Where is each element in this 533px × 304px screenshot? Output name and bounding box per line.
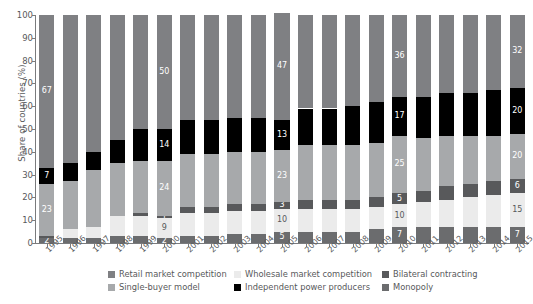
bar-2002[interactable]	[204, 15, 219, 243]
bar-segment[interactable]: 10	[274, 209, 289, 232]
bar-2013[interactable]	[463, 15, 478, 243]
bar-segment[interactable]	[486, 90, 501, 136]
bar-segment[interactable]: 32	[510, 15, 525, 88]
bar-segment[interactable]	[439, 15, 454, 93]
bar-2003[interactable]	[227, 15, 242, 243]
bar-segment[interactable]: 15	[510, 193, 525, 227]
bar-segment[interactable]	[227, 15, 242, 118]
bar-segment[interactable]	[180, 154, 195, 206]
bar-segment[interactable]	[204, 154, 219, 206]
legend-single-buyer-model[interactable]: Single-buyer model	[108, 282, 234, 292]
bar-segment[interactable]: 25	[392, 136, 407, 193]
legend-retail-market-competition[interactable]: Retail market competition	[108, 269, 234, 279]
bar-segment[interactable]	[463, 197, 478, 227]
bar-segment[interactable]	[439, 186, 454, 200]
bar-segment[interactable]: 9	[157, 218, 172, 239]
legend-wholesale-market-competition[interactable]: Wholesale market competition	[234, 269, 382, 279]
bar-segment[interactable]	[86, 152, 101, 170]
bar-1996[interactable]	[63, 15, 78, 243]
bar-segment[interactable]	[133, 213, 148, 215]
bar-segment[interactable]	[322, 145, 337, 200]
bar-segment[interactable]	[298, 145, 313, 200]
bar-segment[interactable]	[439, 136, 454, 186]
bar-segment[interactable]	[369, 15, 384, 102]
bar-segment[interactable]	[204, 120, 219, 154]
bar-segment[interactable]	[63, 163, 78, 181]
bar-segment[interactable]: 23	[274, 150, 289, 202]
bar-segment[interactable]	[227, 211, 242, 234]
legend-independent-power-producers[interactable]: Independent power producers	[234, 282, 382, 292]
bar-1998[interactable]	[110, 15, 125, 243]
bar-segment[interactable]	[227, 118, 242, 152]
bar-2008[interactable]	[345, 15, 360, 243]
bar-segment[interactable]	[110, 140, 125, 163]
bar-segment[interactable]	[416, 97, 431, 138]
bar-segment[interactable]	[416, 202, 431, 227]
bar-segment[interactable]	[486, 136, 501, 182]
bar-1997[interactable]	[86, 15, 101, 243]
bar-1999[interactable]	[133, 15, 148, 243]
bar-2011[interactable]	[416, 15, 431, 243]
bar-2005[interactable]: 5103231347	[274, 15, 289, 243]
bar-segment[interactable]	[86, 170, 101, 227]
bar-segment[interactable]: 20	[510, 134, 525, 180]
bar-2014[interactable]	[486, 15, 501, 243]
bar-segment[interactable]	[298, 209, 313, 232]
bar-segment[interactable]	[251, 15, 266, 118]
bar-segment[interactable]	[345, 145, 360, 200]
bar-segment[interactable]	[251, 118, 266, 152]
bar-2000[interactable]: 291241450	[157, 15, 172, 243]
bar-segment[interactable]	[86, 227, 101, 238]
bar-segment[interactable]: 23	[39, 184, 54, 236]
bar-segment[interactable]	[322, 209, 337, 232]
bar-segment[interactable]	[439, 200, 454, 227]
bar-2012[interactable]	[439, 15, 454, 243]
bar-segment[interactable]	[204, 15, 219, 120]
bar-segment[interactable]	[298, 200, 313, 209]
bar-2009[interactable]	[369, 15, 384, 243]
bar-segment[interactable]	[345, 209, 360, 232]
bar-segment[interactable]: 13	[274, 120, 289, 150]
bar-2015[interactable]: 7156202032	[510, 15, 525, 243]
legend-bilateral-contracting[interactable]: Bilateral contracting	[382, 269, 477, 279]
bar-2010[interactable]: 7105251736	[392, 15, 407, 243]
bar-segment[interactable]	[345, 200, 360, 209]
bar-segment[interactable]	[416, 138, 431, 190]
bar-segment[interactable]	[204, 207, 219, 214]
bar-2001[interactable]	[180, 15, 195, 243]
bar-segment[interactable]	[298, 15, 313, 108]
bar-segment[interactable]	[486, 181, 501, 195]
bar-segment[interactable]	[463, 93, 478, 136]
bar-segment[interactable]	[369, 197, 384, 206]
bar-2007[interactable]	[322, 15, 337, 243]
bar-segment[interactable]	[251, 211, 266, 234]
legend-monopoly[interactable]: Monopoly	[382, 282, 433, 292]
bar-segment[interactable]	[133, 216, 148, 237]
bar-segment[interactable]: 1	[157, 216, 172, 218]
bar-segment[interactable]	[180, 207, 195, 214]
bar-segment[interactable]: 7	[39, 168, 54, 184]
bar-segment[interactable]	[204, 213, 219, 236]
bar-segment[interactable]	[486, 15, 501, 90]
bar-segment[interactable]	[63, 229, 78, 238]
bar-1995[interactable]: 223767	[39, 15, 54, 243]
bar-segment[interactable]	[86, 15, 101, 152]
bar-segment[interactable]	[180, 120, 195, 154]
bar-segment[interactable]: 24	[157, 161, 172, 216]
bar-segment[interactable]	[251, 152, 266, 204]
bar-segment[interactable]: 10	[392, 204, 407, 227]
bar-segment[interactable]: 5	[392, 193, 407, 204]
bar-segment[interactable]	[110, 216, 125, 237]
bar-segment[interactable]: 3	[274, 202, 289, 209]
bar-segment[interactable]	[133, 161, 148, 213]
bar-segment[interactable]	[322, 15, 337, 108]
bar-segment[interactable]	[463, 136, 478, 184]
bar-segment[interactable]	[110, 15, 125, 140]
bar-segment[interactable]	[416, 191, 431, 202]
bar-segment[interactable]	[110, 163, 125, 215]
bar-segment[interactable]	[369, 143, 384, 198]
bar-segment[interactable]	[227, 204, 242, 211]
bar-segment[interactable]	[133, 15, 148, 129]
bar-segment[interactable]: 14	[157, 129, 172, 161]
bar-segment[interactable]	[463, 15, 478, 93]
